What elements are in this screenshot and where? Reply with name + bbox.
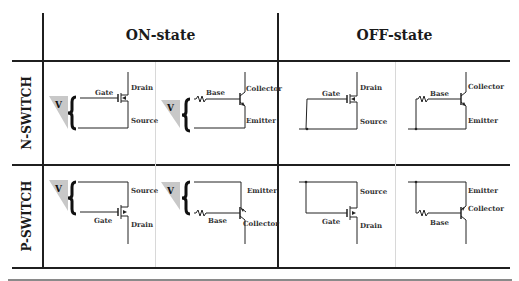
p-off-emitter-label: Emitter bbox=[468, 186, 498, 195]
n-on-bjt-voltage-label: V bbox=[167, 103, 174, 113]
p-on-mosfet-voltage-label: V bbox=[55, 184, 62, 194]
n-on-mosfet-voltage-label: V bbox=[55, 100, 62, 110]
p-off-bjt-circuit bbox=[0, 0, 519, 281]
p-on-bjt-voltage-label: V bbox=[167, 186, 174, 196]
p-off-base-label: Base bbox=[430, 218, 449, 227]
p-off-collector-label: Collector bbox=[468, 204, 504, 213]
